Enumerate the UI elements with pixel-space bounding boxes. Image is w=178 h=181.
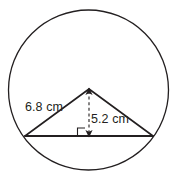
right-angle-square-icon [78,128,86,136]
geometry-figure: 6.8 cm 5.2 cm [0,0,178,181]
figure-canvas [0,0,178,181]
height-label: 5.2 cm [91,113,129,126]
slant-side-label: 6.8 cm [25,101,63,114]
